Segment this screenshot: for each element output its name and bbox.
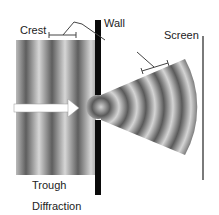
- crest-label: Crest: [20, 25, 46, 36]
- wall-lower: [95, 120, 101, 195]
- wall-upper: [95, 20, 101, 95]
- screen-line: [202, 36, 204, 180]
- diffracted-wave-fan: [101, 59, 197, 155]
- screen-label: Screen: [164, 30, 199, 41]
- trough-label: Trough: [32, 180, 66, 191]
- wall-label: Wall: [104, 18, 125, 29]
- caption: Diffraction: [32, 201, 81, 212]
- aperture-wavelet: [86, 95, 110, 119]
